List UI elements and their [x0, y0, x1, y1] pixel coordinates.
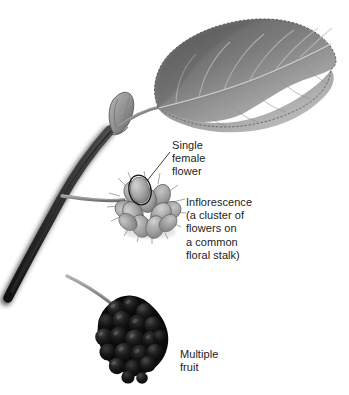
mulberry-diagram: Single female flower Inflorescence (a cl… [0, 0, 349, 395]
flower-stalk [62, 195, 124, 201]
woody-stem [6, 130, 111, 300]
multiple-fruit [95, 296, 168, 384]
flower-cluster [107, 171, 186, 244]
leader-line-single-female-flower [147, 152, 170, 181]
terminal-bud [109, 92, 134, 134]
botanical-illustration [0, 0, 349, 395]
label-multiple-fruit: Multiple fruit [180, 348, 218, 374]
label-inflorescence: Inflorescence (a cluster of flowers on a… [186, 196, 252, 262]
leaf [155, 19, 336, 132]
label-single-female-flower: Single female flower [172, 139, 205, 179]
fruit-stalk [67, 275, 112, 304]
